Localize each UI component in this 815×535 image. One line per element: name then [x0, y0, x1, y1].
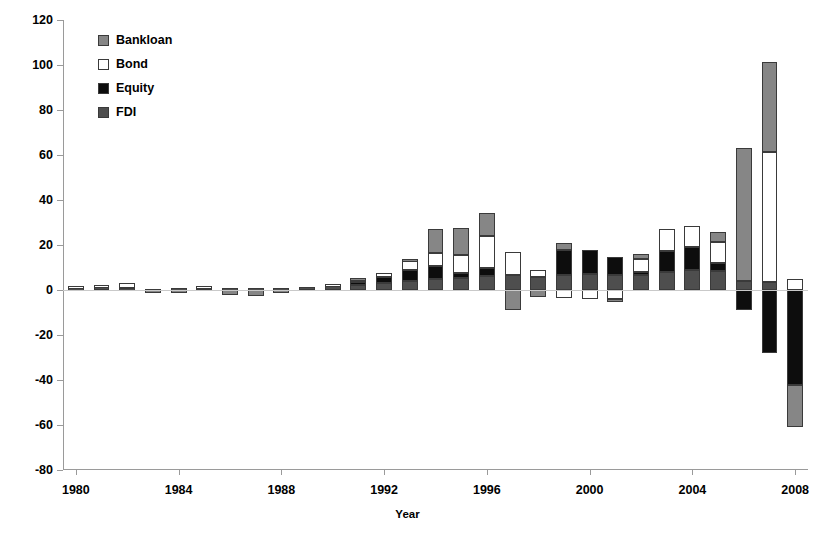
stacked-bar-chart: 19801984198819921996200020042008 1201008…	[0, 0, 815, 535]
bar-segment-fdi	[684, 270, 700, 290]
legend-label-equity: Equity	[116, 82, 154, 95]
zero-baseline	[63, 290, 808, 291]
bar-group	[171, 20, 187, 470]
bar-segment-bankloan	[633, 254, 649, 259]
bar-segment-bankloan	[505, 290, 521, 310]
legend-label-fdi: FDI	[116, 106, 136, 119]
bar-group	[710, 20, 726, 470]
bond-swatch-icon	[98, 59, 109, 70]
bar-group	[402, 20, 418, 470]
x-axis-label: 1996	[452, 484, 522, 497]
bar-segment-bond	[325, 284, 341, 287]
y-axis-tick	[57, 65, 63, 66]
y-axis-label: -20	[5, 329, 53, 342]
bar-segment-fdi	[659, 272, 675, 290]
bar-segment-equity	[582, 250, 598, 275]
bar-group	[762, 20, 778, 470]
x-axis-label: 2008	[760, 484, 815, 497]
bar-group	[556, 20, 572, 470]
bar-segment-bond	[376, 273, 392, 278]
y-axis-tick	[57, 245, 63, 246]
x-axis-label: 1980	[41, 484, 111, 497]
x-axis-label: 2000	[555, 484, 625, 497]
bar-segment-bankloan	[402, 259, 418, 262]
bar-segment-bankloan	[556, 243, 572, 250]
bar-segment-bankloan	[736, 148, 752, 281]
x-axis-label: 1992	[349, 484, 419, 497]
y-axis-tick	[57, 470, 63, 471]
bar-group	[196, 20, 212, 470]
y-axis-tick	[57, 20, 63, 21]
y-axis-tick	[57, 425, 63, 426]
bar-segment-equity	[710, 263, 726, 271]
bar-segment-bond	[633, 259, 649, 273]
x-axis-label: 1988	[246, 484, 316, 497]
bar-segment-fdi	[479, 276, 495, 290]
x-axis-label: 1984	[144, 484, 214, 497]
bar-segment-equity	[556, 250, 572, 276]
y-axis-label: 20	[5, 239, 53, 252]
bar-group	[299, 20, 315, 470]
bar-segment-equity	[659, 251, 675, 272]
bar-segment-bond	[530, 270, 546, 277]
bar-group	[659, 20, 675, 470]
bar-segment-equity	[350, 282, 366, 285]
bar-segment-fdi	[428, 279, 444, 290]
bar-segment-fdi	[530, 277, 546, 290]
y-axis-label: -80	[5, 464, 53, 477]
y-axis-label: -60	[5, 419, 53, 432]
bar-segment-equity	[402, 270, 418, 280]
bar-segment-fdi	[736, 281, 752, 290]
bar-segment-bond	[94, 285, 110, 288]
legend-label-bankloan: Bankloan	[116, 34, 172, 47]
bar-segment-bankloan	[710, 232, 726, 242]
legend-item-bankloan: Bankloan	[98, 28, 172, 52]
bar-segment-bankloan	[479, 213, 495, 236]
y-axis-tick	[57, 380, 63, 381]
bar-segment-fdi	[582, 274, 598, 290]
bar-group	[248, 20, 264, 470]
bar-segment-bankloan	[762, 62, 778, 152]
y-axis-label: 80	[5, 104, 53, 117]
x-axis-tick	[487, 470, 488, 475]
bar-segment-bond	[68, 286, 84, 289]
bar-group	[684, 20, 700, 470]
bar-segment-fdi	[710, 271, 726, 290]
bar-segment-bankloan	[428, 229, 444, 254]
x-axis-label: 2004	[657, 484, 727, 497]
bar-segment-bankloan	[607, 299, 623, 302]
bar-segment-bond	[556, 290, 572, 298]
bar-segment-fdi	[607, 275, 623, 290]
bar-segment-equity	[453, 273, 469, 278]
y-axis-label: 0	[5, 284, 53, 297]
bar-segment-equity	[428, 266, 444, 280]
x-axis-tick	[692, 470, 693, 475]
bar-group	[479, 20, 495, 470]
bar-group	[68, 20, 84, 470]
x-axis-tick	[76, 470, 77, 475]
x-axis-tick	[795, 470, 796, 475]
bar-segment-bond	[453, 255, 469, 273]
bar-segment-bond	[582, 290, 598, 299]
bar-group	[222, 20, 238, 470]
bar-segment-bankloan	[787, 385, 803, 428]
bar-segment-bond	[607, 290, 623, 299]
bar-segment-bond	[505, 252, 521, 275]
x-axis-tick	[590, 470, 591, 475]
bar-segment-equity	[633, 272, 649, 275]
bar-group	[453, 20, 469, 470]
bar-segment-fdi	[402, 281, 418, 290]
bar-segment-bond	[479, 236, 495, 269]
bar-segment-bond	[684, 226, 700, 247]
bar-segment-bond	[710, 242, 726, 263]
bar-segment-fdi	[633, 275, 649, 290]
bar-segment-equity	[787, 290, 803, 385]
y-axis-label: 100	[5, 59, 53, 72]
bar-segment-bond	[428, 253, 444, 265]
bar-segment-fdi	[505, 275, 521, 290]
bar-segment-fdi	[453, 278, 469, 290]
legend-label-bond: Bond	[116, 58, 148, 71]
y-axis-tick	[57, 335, 63, 336]
plot-area: 19801984198819921996200020042008	[63, 20, 808, 470]
bar-segment-equity	[607, 257, 623, 275]
